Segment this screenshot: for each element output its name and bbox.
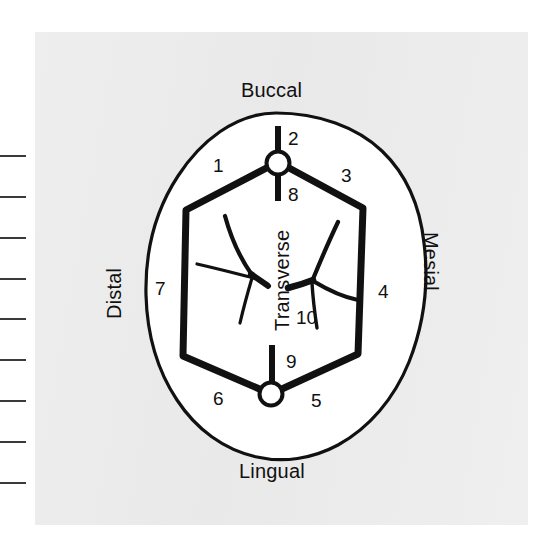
orientation-label-lingual: Lingual — [239, 461, 305, 481]
ridge-label-1: 1 — [213, 156, 224, 175]
center-label-transverse: Transverse — [272, 230, 292, 331]
orientation-label-mesial: Mesial — [421, 232, 441, 291]
ridge-label-10: 10 — [296, 308, 317, 327]
ridge-label-9: 9 — [286, 352, 297, 371]
orientation-label-buccal: Buccal — [241, 80, 302, 100]
ridge-label-6: 6 — [213, 389, 224, 408]
figure-page: Buccal Lingual Distal Mesial Transverse … — [0, 0, 542, 545]
ridge-label-2: 2 — [288, 129, 299, 148]
ridge-label-4: 4 — [378, 282, 389, 301]
ridge-label-5: 5 — [311, 391, 322, 410]
ridge-label-8: 8 — [288, 185, 299, 204]
ridge-label-7: 7 — [155, 279, 166, 298]
lingual-contact-circle — [260, 383, 283, 406]
ridge-label-3: 3 — [341, 166, 352, 185]
buccal-contact-circle — [267, 152, 290, 175]
orientation-label-distal: Distal — [104, 268, 124, 319]
